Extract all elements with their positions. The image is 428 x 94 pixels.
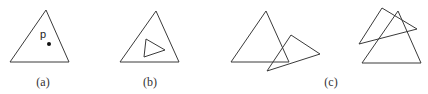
triangle-c2-upright: [362, 11, 421, 63]
point-p-dot: [47, 42, 51, 46]
outer-triangle-b: [120, 11, 179, 62]
panel-c: (c): [231, 8, 421, 89]
panel-b: (b): [120, 11, 179, 89]
point-p-label: p: [40, 28, 46, 40]
caption-b: (b): [143, 75, 157, 89]
triangle-c1-overlap: [267, 35, 320, 71]
panel-a: p (a): [10, 10, 69, 89]
caption-c: (c): [324, 75, 337, 89]
caption-a: (a): [36, 75, 49, 89]
triangle-configurations-figure: p (a) (b) (c): [0, 0, 428, 94]
triangle-c1-large: [231, 11, 289, 62]
inner-triangle-b: [144, 39, 165, 57]
